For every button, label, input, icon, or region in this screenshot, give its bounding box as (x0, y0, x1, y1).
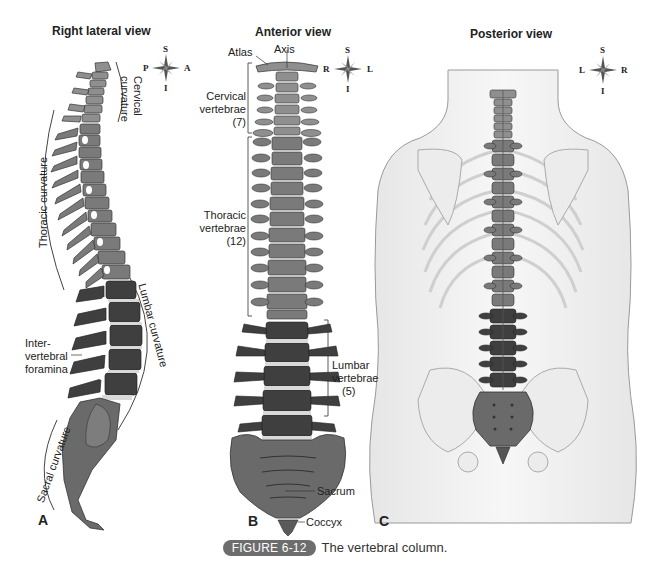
compass-rose-posterior (589, 56, 617, 84)
compass-b-left: L (367, 64, 373, 74)
figure-caption: FIGURE 6-12The vertebral column. (0, 540, 670, 556)
label-cervical-curvature-2: curvature (118, 76, 131, 122)
label-axis: Axis (274, 43, 295, 56)
compass-a-anterior: A (184, 63, 191, 73)
compass-a-inferior: I (164, 83, 168, 93)
compass-rose-anterior (334, 55, 362, 83)
panel-a-title: Right lateral view (52, 24, 151, 38)
compass-rose-lateral (152, 54, 180, 82)
figure-caption-text: The vertebral column. (322, 540, 448, 555)
compass-a-posterior: P (143, 63, 149, 73)
label-atlas: Atlas (228, 46, 252, 59)
figure-number-badge: FIGURE 6-12 (223, 540, 316, 556)
compass-a-superior: S (163, 44, 168, 54)
panel-c-title: Posterior view (470, 27, 552, 41)
label-sacrum: Sacrum (317, 485, 355, 498)
compass-c-right: R (621, 65, 628, 75)
compass-c-superior: S (600, 45, 605, 55)
label-thoracic-vertebrae: Thoracic vertebrae (12) (196, 209, 246, 248)
compass-c-left: L (579, 65, 585, 75)
label-lumbar-vertebrae: Lumbar vertebrae (5) (332, 359, 378, 398)
panel-letter-a: A (38, 512, 48, 528)
label-cervical-curvature: Cervical (131, 76, 144, 116)
label-cervical-vertebrae: Cervical vertebrae (7) (196, 90, 246, 129)
anterior-spine (230, 50, 345, 536)
panel-letter-b: B (248, 513, 258, 529)
posterior-body (370, 70, 637, 523)
panel-letter-c: C (379, 513, 389, 529)
compass-c-inferior: I (601, 86, 605, 96)
compass-b-right: R (323, 64, 330, 74)
label-thoracic-curvature: Thoracic curvature (37, 157, 50, 248)
compass-b-superior: S (345, 45, 350, 55)
panel-b-title: Anterior view (255, 25, 331, 39)
compass-b-inferior: I (346, 84, 350, 94)
label-coccyx: Coccyx (306, 516, 342, 529)
label-intervertebral-foramina: Inter- vertebral foramina (25, 337, 68, 376)
